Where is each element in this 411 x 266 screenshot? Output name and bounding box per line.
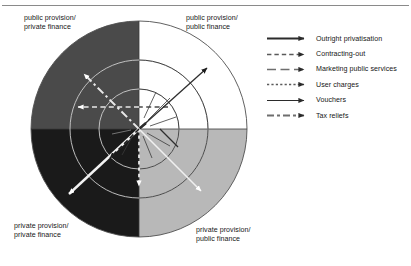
- legend-item-user-charges: User charges: [266, 77, 408, 92]
- legend-line-dashed-long-icon: [266, 64, 312, 75]
- figure-container: public provision/ private finance public…: [0, 0, 411, 266]
- legend-label-tax-reliefs: Tax reliefs: [316, 112, 348, 120]
- legend-line-dash-dot-icon: [266, 110, 312, 121]
- legend-label-user-charges: User charges: [316, 81, 359, 89]
- legend-item-marketing-public-services: Marketing public services: [266, 62, 408, 77]
- legend: Outright privatisation Contracting-out M…: [266, 31, 408, 123]
- legend-label-vouchers: Vouchers: [316, 96, 346, 104]
- quadrant-label-bottom-right: private provision/ public finance: [196, 226, 251, 244]
- legend-item-tax-reliefs: Tax reliefs: [266, 108, 408, 123]
- legend-line-solid-thick-icon: [266, 33, 312, 44]
- legend-label-outright-privatisation: Outright privatisation: [316, 35, 382, 43]
- legend-item-contracting-out: Contracting-out: [266, 46, 408, 61]
- legend-line-dotted-icon: [266, 79, 312, 90]
- legend-label-contracting-out: Contracting-out: [316, 50, 365, 58]
- quadrant-label-top-left: public provision/ private finance: [24, 14, 76, 32]
- legend-line-solid-thin-icon: [266, 95, 312, 106]
- legend-item-vouchers: Vouchers: [266, 93, 408, 108]
- legend-label-marketing-public-services: Marketing public services: [316, 65, 397, 73]
- legend-item-outright-privatisation: Outright privatisation: [266, 31, 408, 46]
- quadrant-label-top-right: public provision/ public finance: [186, 14, 238, 32]
- quadrant-label-bottom-left: private provision/ private finance: [14, 222, 69, 240]
- legend-line-dashed-short-icon: [266, 49, 312, 60]
